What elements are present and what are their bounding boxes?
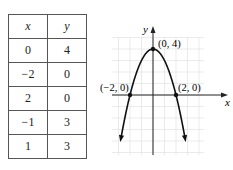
left-intercept-label: (−2, 0) xyxy=(100,82,129,94)
y-axis-label: y xyxy=(142,23,148,35)
parabola-graph: y x (0, 4) (−2, 0) (2, 0) xyxy=(0,0,233,170)
x-axis-label: x xyxy=(224,96,230,108)
right-intercept-label: (2, 0) xyxy=(178,82,201,94)
grid xyxy=(112,37,204,155)
y-axis-arrow-icon xyxy=(151,26,156,33)
vertex-point xyxy=(151,47,155,51)
left-intercept-point xyxy=(128,93,132,97)
vertex-label: (0, 4) xyxy=(158,38,181,50)
right-intercept-point xyxy=(174,93,178,97)
